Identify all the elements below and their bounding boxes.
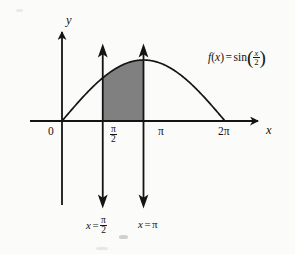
caption-value-pi: π bbox=[152, 218, 158, 230]
scan-artifact bbox=[119, 235, 128, 239]
caption-fraction-numerator: π bbox=[100, 216, 107, 226]
shaded-area bbox=[103, 60, 144, 121]
vertical-line-label-pi: x=π bbox=[138, 219, 158, 230]
caption-fraction-denominator: 2 bbox=[100, 225, 107, 236]
sine-curve-plot bbox=[0, 0, 295, 254]
fraction-numerator: π bbox=[110, 125, 117, 135]
tick-label-pi-over-2: π 2 bbox=[110, 125, 117, 145]
function-label: f(x)=sin(x2) bbox=[208, 49, 266, 67]
y-axis-label: y bbox=[66, 14, 72, 27]
fraction-denominator: 2 bbox=[110, 134, 117, 145]
shaded-area-path bbox=[103, 60, 144, 121]
scan-artifact-3 bbox=[16, 9, 23, 12]
x-axis-label: x bbox=[266, 124, 272, 137]
caption-fraction-pi-over-2: π2 bbox=[100, 216, 107, 236]
vertical-line-label-pi-over-2: x=π2 bbox=[86, 216, 107, 236]
vertical-line-pi-over-2-group bbox=[98, 44, 108, 209]
caption-equals-2: = bbox=[143, 218, 152, 230]
scan-artifact-2 bbox=[96, 247, 108, 250]
figure-container: y x 0 π 2 π 2π f(x)=sin(x2) x=π2 x=π bbox=[0, 0, 295, 254]
caption-equals: = bbox=[91, 219, 100, 231]
tick-label-2pi: 2π bbox=[218, 126, 230, 138]
function-paren-close: ) bbox=[260, 51, 266, 65]
tick-label-origin: 0 bbox=[48, 126, 54, 138]
function-equals: = bbox=[224, 51, 234, 63]
fraction-pi-over-2: π 2 bbox=[110, 125, 117, 145]
tick-label-pi: π bbox=[158, 126, 164, 138]
function-sin: sin bbox=[234, 51, 247, 63]
